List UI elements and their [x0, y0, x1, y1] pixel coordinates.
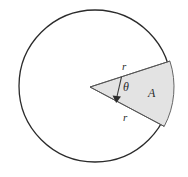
angle-theta-label: θ	[123, 81, 129, 93]
circle-sector-diagram	[0, 0, 188, 177]
radius-upper-label: r	[122, 61, 126, 72]
figure-container: r θ A r	[0, 0, 188, 177]
area-label: A	[148, 87, 155, 99]
radius-lower-label: r	[123, 112, 127, 123]
